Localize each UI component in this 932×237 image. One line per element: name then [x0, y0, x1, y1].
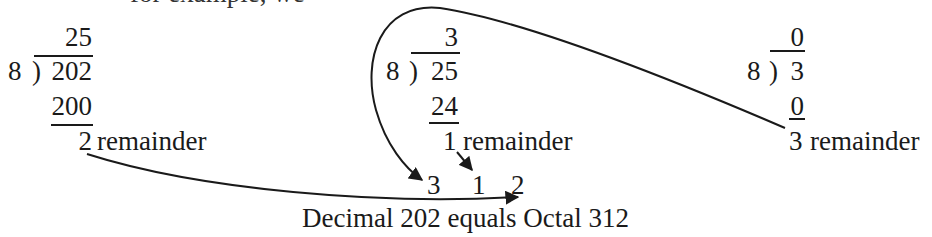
arrow-remainder-3	[372, 8, 785, 180]
arrow-remainder-2	[87, 154, 518, 199]
arrows-layer	[0, 0, 932, 237]
arrow-remainder-1	[457, 152, 472, 170]
